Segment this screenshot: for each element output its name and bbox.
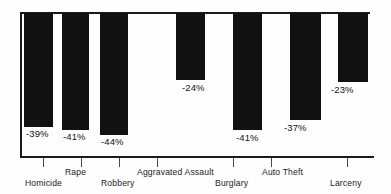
x-axis-label: Auto Theft — [262, 167, 303, 177]
bar — [62, 13, 89, 130]
plot-area: -39%Homicide-41%Rape-44%Robbery-24%Aggra… — [0, 0, 391, 194]
bar — [338, 13, 368, 82]
x-axis-tick — [119, 158, 120, 167]
bar-value-label: -24% — [182, 82, 205, 93]
bar-value-label: -41% — [236, 132, 259, 143]
x-axis-tick — [81, 158, 82, 167]
bar-value-label: -37% — [284, 122, 307, 133]
bar — [176, 13, 205, 80]
x-axis-label: Aggravated Assault — [137, 167, 214, 177]
bar-value-label: -44% — [101, 136, 124, 147]
x-axis-label: Burglary — [215, 178, 248, 188]
bar-value-label: -41% — [63, 131, 86, 142]
x-axis-tick — [157, 158, 158, 167]
bar — [24, 13, 53, 127]
x-axis-label: Larceny — [330, 178, 362, 188]
x-axis-label: Robbery — [101, 178, 135, 188]
x-axis-label: Homicide — [25, 178, 62, 188]
bar-value-label: -39% — [26, 128, 49, 139]
x-axis-tick — [233, 158, 234, 167]
bar-chart: -39%Homicide-41%Rape-44%Robbery-24%Aggra… — [0, 0, 391, 194]
x-axis-tick — [271, 158, 272, 167]
bar — [290, 13, 321, 120]
bar — [100, 13, 128, 135]
bar — [233, 13, 262, 130]
x-axis-tick — [347, 158, 348, 167]
bar-value-label: -23% — [331, 84, 354, 95]
x-axis-tick — [43, 158, 44, 167]
x-axis-label: Rape — [65, 167, 86, 177]
